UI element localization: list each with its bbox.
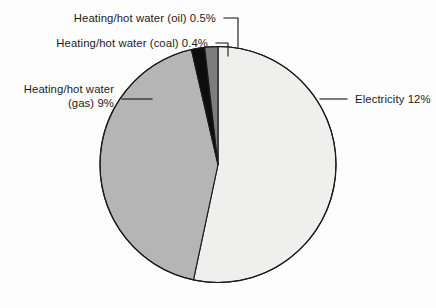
pie-label-electricity: Electricity 12% bbox=[355, 93, 431, 105]
pie-label-heating-hot-water-gas-line1: Heating/hot water bbox=[24, 83, 114, 95]
pie-label-heating-hot-water-oil: Heating/hot water (oil) 0.5% bbox=[74, 12, 216, 24]
pie-label-heating-hot-water-gas-line2: (gas) 9% bbox=[68, 97, 114, 109]
pie-label-heating-hot-water-coal: Heating/hot water (coal) 0.4% bbox=[56, 37, 208, 49]
pie-slices bbox=[100, 46, 336, 282]
pie-chart-canvas: Heating/hot water (oil) 0.5% Heating/hot… bbox=[0, 0, 436, 308]
pie-chart-figure: Heating/hot water (oil) 0.5% Heating/hot… bbox=[0, 0, 436, 308]
